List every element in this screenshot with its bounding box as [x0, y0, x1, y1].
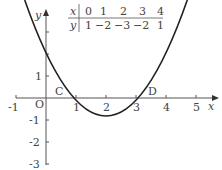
table-y-cell: −3 [114, 19, 130, 32]
point-d-label: D [148, 85, 157, 98]
y-tick-label: 1 [35, 70, 42, 83]
value-table: x y 0 1 2 3 4 1 −2 −3 −2 1 [68, 4, 164, 32]
table-header-x: x [70, 5, 77, 18]
y-axis-label: y [34, 9, 42, 22]
table-x-cell: 4 [157, 5, 164, 18]
origin-label: O [35, 98, 44, 111]
table-x-cell: 3 [139, 5, 146, 18]
x-tick-label: -1 [8, 101, 19, 114]
table-y-cell: −2 [133, 19, 149, 32]
y-tick-label: -1 [29, 114, 40, 127]
table-y-cell: 1 [157, 19, 164, 32]
point-c-label: C [55, 85, 63, 98]
y-tick-label: -3 [29, 158, 40, 170]
x-axis-label: x [208, 100, 215, 113]
graph: -1 1 2 3 4 5 x 1 -1 -2 -3 y O C D x y 0 … [0, 0, 222, 170]
table-header-y: y [69, 19, 77, 32]
y-tick-label: -2 [29, 136, 40, 149]
table-x-cell: 0 [85, 5, 92, 18]
table-x-cell: 2 [120, 5, 127, 18]
table-y-cell: −2 [95, 19, 111, 32]
table-x-cell: 1 [100, 5, 107, 18]
x-tick-label: 2 [103, 101, 110, 114]
x-tick-label: 4 [163, 101, 170, 114]
table-y-cell: 1 [85, 19, 92, 32]
y-axis-arrow-icon [43, 9, 49, 16]
x-tick-label: 5 [193, 101, 200, 114]
axes [16, 14, 212, 165]
